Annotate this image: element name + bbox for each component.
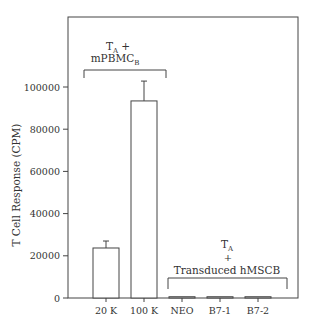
group-label-left-line2: mPBMCB: [91, 52, 140, 67]
bar: [207, 297, 233, 298]
x-axis-labels: 20 K100 KNEOB7-1B7-2: [95, 298, 269, 316]
y-tick-label: 80000: [30, 124, 60, 135]
x-tick-label: 20 K: [95, 305, 118, 316]
x-tick-label: NEO: [170, 305, 193, 316]
group-label-right-line3: Transduced hMSCB: [174, 264, 281, 276]
x-tick-label: 100 K: [130, 305, 159, 316]
x-tick-label: B7-1: [209, 305, 231, 316]
y-tick-label: 0: [54, 293, 60, 304]
group-label-right-line2: +: [224, 252, 232, 263]
bar-chart: 020000400006000080000100000 20 K100 KNEO…: [0, 0, 314, 335]
y-tick-label: 40000: [30, 208, 60, 219]
y-tick-label: 60000: [30, 166, 60, 177]
group-bracket-right: TA + Transduced hMSCB: [168, 238, 287, 289]
bar: [245, 297, 271, 298]
bar: [93, 248, 119, 298]
y-axis-ticks: 020000400006000080000100000: [24, 82, 68, 304]
group-bracket-left: TA + mPBMCB: [84, 40, 166, 78]
bar: [169, 297, 195, 298]
y-tick-label: 100000: [24, 82, 60, 93]
x-tick-label: B7-2: [247, 305, 269, 316]
bar: [131, 101, 157, 298]
group-label-right-line1: TA: [221, 238, 234, 253]
y-axis-label: T Cell Response (CPM): [10, 124, 22, 247]
y-tick-label: 20000: [30, 250, 60, 261]
